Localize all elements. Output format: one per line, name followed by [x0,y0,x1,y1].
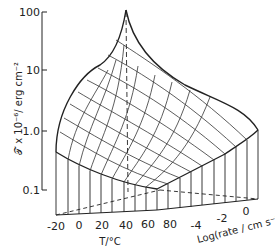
z-tick-0-1: 0.1 [23,184,41,197]
z-tick-100: 100 [19,6,40,19]
x-tick--20: -20 [47,220,65,233]
x-tick-80: 80 [163,218,177,231]
surface-grid-T [68,45,210,187]
y-tick--2: -2 [217,212,228,225]
x-tick-0: 0 [76,219,83,232]
y-tick-0: 0 [243,205,250,218]
z-tick-10: 10 [26,64,40,77]
x-axis-title: T/°C [98,236,120,247]
z-axis-title: 𝒯 x 10⁻⁶/ erg cm⁻² [13,62,24,155]
x-tick-60: 60 [141,218,155,231]
y-axis-title: Log(rate / cm s⁻¹) [196,213,275,245]
x-tick-40: 40 [119,219,133,232]
x-tick-20: 20 [95,219,109,232]
surface-chart: 100 10 1.0 0.1 𝒯 x 10⁻⁶/ erg cm⁻² [0,0,275,252]
front-top-edge [56,152,157,189]
y-tick--4: -4 [191,219,202,232]
right-wall [168,130,258,209]
z-axis [42,12,47,190]
x-tick-labels: -20 0 20 40 60 80 [47,218,177,233]
surface-back-edge [126,10,258,130]
z-tick-1: 1.0 [23,125,41,138]
